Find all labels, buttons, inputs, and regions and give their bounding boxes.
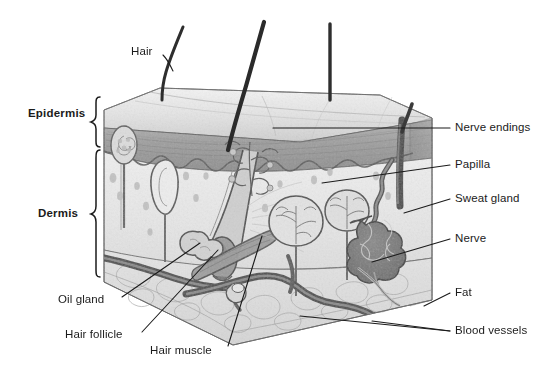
skin-cross-section-diagram: Epidermis Dermis Hair Nerve endings Papi… bbox=[0, 0, 554, 380]
skin-illustration bbox=[0, 0, 554, 380]
label-nerve: Nerve bbox=[455, 233, 486, 245]
label-hair-muscle: Hair muscle bbox=[150, 345, 212, 357]
dermis-bracket bbox=[91, 150, 100, 277]
cut-vessel-stub bbox=[226, 283, 246, 302]
label-blood-vessels: Blood vessels bbox=[455, 325, 527, 337]
label-fat: Fat bbox=[455, 287, 472, 299]
label-epidermis: Epidermis bbox=[28, 108, 85, 120]
label-sweat-gland: Sweat gland bbox=[455, 193, 519, 205]
label-oil-gland: Oil gland bbox=[58, 294, 104, 306]
label-hair-follicle: Hair follicle bbox=[65, 329, 123, 341]
skin-block bbox=[104, 88, 432, 345]
label-hair: Hair bbox=[131, 46, 153, 58]
epidermis-bracket bbox=[91, 97, 100, 147]
label-papilla: Papilla bbox=[455, 159, 490, 171]
label-dermis: Dermis bbox=[38, 208, 78, 220]
layer-brackets bbox=[91, 97, 100, 277]
label-nerve-endings: Nerve endings bbox=[455, 122, 530, 134]
